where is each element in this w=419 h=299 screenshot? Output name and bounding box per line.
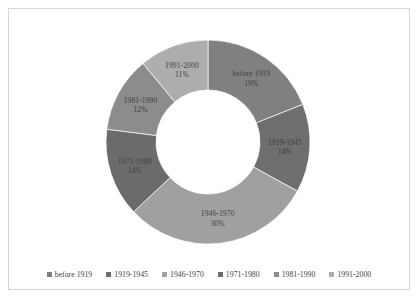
slice-label-percent: 30% xyxy=(211,219,226,228)
legend-swatch-icon xyxy=(162,272,167,277)
slice-label-percent: 11% xyxy=(175,70,190,79)
slice-label-name: 1919-1945 xyxy=(268,138,302,147)
chart-legend: before 19191919-19451946-19701971-198019… xyxy=(9,264,409,286)
slice-label-name: 1991-2000 xyxy=(165,61,199,70)
legend-item[interactable]: before 1919 xyxy=(47,271,92,279)
legend-item[interactable]: 1919-1945 xyxy=(106,271,148,279)
slice-label-percent: 12% xyxy=(133,105,148,114)
slice-label-name: 1981-1990 xyxy=(124,96,158,105)
legend-item-label: before 1919 xyxy=(55,271,92,279)
donut-plot-area: before 191919%1919-194514%1946-197030%19… xyxy=(0,0,419,262)
legend-item[interactable]: 1946-1970 xyxy=(162,271,204,279)
legend-item[interactable]: 1991-2000 xyxy=(329,271,371,279)
legend-item-label: 1971-1980 xyxy=(226,271,260,279)
legend-item[interactable]: 1971-1980 xyxy=(218,271,260,279)
slice-label-percent: 14% xyxy=(128,166,143,175)
legend-item-label: 1946-1970 xyxy=(170,271,204,279)
slice-label-name: before 1919 xyxy=(233,69,271,78)
donut-svg: before 191919%1919-194514%1946-197030%19… xyxy=(0,0,419,262)
legend-swatch-icon xyxy=(329,272,334,277)
slice-label-name: 1946-1970 xyxy=(201,209,235,218)
legend-swatch-icon xyxy=(274,272,279,277)
slice-label-percent: 19% xyxy=(244,79,259,88)
legend-item-label: 1919-1945 xyxy=(114,271,148,279)
legend-swatch-icon xyxy=(106,272,111,277)
legend-swatch-icon xyxy=(218,272,223,277)
legend-swatch-icon xyxy=(47,272,52,277)
slice-label-name: 1971-1980 xyxy=(118,157,152,166)
legend-item[interactable]: 1981-1990 xyxy=(274,271,316,279)
legend-item-label: 1981-1990 xyxy=(282,271,316,279)
slice-label-percent: 14% xyxy=(278,147,293,156)
legend-item-label: 1991-2000 xyxy=(337,271,371,279)
donut-chart-figure: before 191919%1919-194514%1946-197030%19… xyxy=(0,0,419,299)
